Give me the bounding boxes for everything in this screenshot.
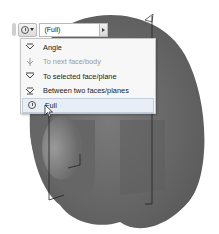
revolve-type-select[interactable]: (Full) bbox=[39, 23, 100, 37]
select-arrow-button[interactable] bbox=[100, 23, 108, 37]
menu-item-label: To selected face/plane bbox=[43, 72, 117, 81]
toolbar-grip[interactable] bbox=[12, 23, 16, 36]
menu-item-to-selected-face-plane[interactable]: To selected face/plane bbox=[21, 69, 155, 84]
clock-icon bbox=[25, 99, 39, 111]
revolve-type-value: (Full) bbox=[44, 26, 60, 33]
between-faces-icon bbox=[23, 85, 37, 97]
selected-face-icon bbox=[23, 70, 37, 82]
menu-item-full[interactable]: Full bbox=[22, 98, 154, 113]
menu-item-label: To next face/body bbox=[43, 57, 101, 66]
angle-icon bbox=[23, 41, 37, 53]
menu-item-label: Between two faces/planes bbox=[43, 86, 129, 95]
next-face-icon bbox=[23, 56, 37, 68]
menu-item-label: Angle bbox=[43, 43, 62, 52]
chevron-down-icon bbox=[30, 28, 34, 31]
mouse-cursor-icon bbox=[44, 104, 54, 118]
chevron-right-icon bbox=[102, 28, 105, 32]
clock-icon bbox=[21, 26, 29, 34]
revolve-type-menu: Angle To next face/body To selected face… bbox=[20, 38, 156, 114]
menu-item-angle[interactable]: Angle bbox=[21, 40, 155, 55]
revolve-type-toolbar: (Full) bbox=[12, 22, 108, 37]
menu-item-to-next-face-body[interactable]: To next face/body bbox=[21, 55, 155, 70]
menu-item-between-two-faces-planes[interactable]: Between two faces/planes bbox=[21, 84, 155, 99]
revolve-type-icon-dropdown[interactable] bbox=[18, 23, 38, 37]
